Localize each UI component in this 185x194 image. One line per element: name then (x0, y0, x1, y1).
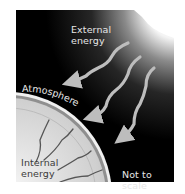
diagram-panel: Atmosphere External energy Internal ener… (16, 10, 174, 182)
internal-energy-label: Internal energy (21, 157, 58, 179)
not-to-scale-label: Not to scale (122, 169, 174, 191)
external-energy-label: External energy (71, 24, 111, 46)
